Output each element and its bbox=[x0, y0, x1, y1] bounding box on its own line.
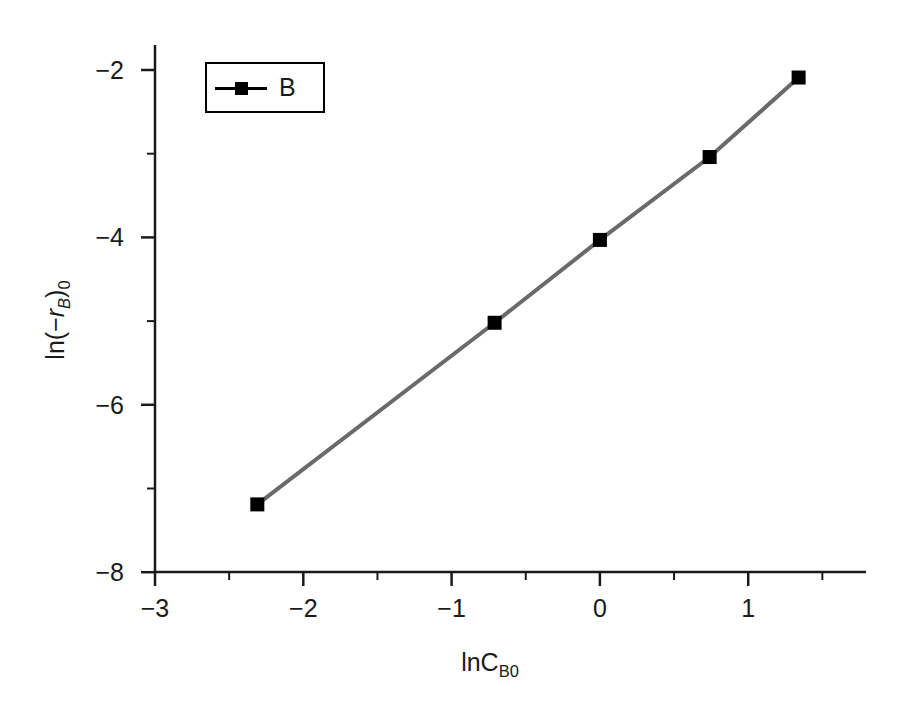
x-tick-label: −2 bbox=[289, 594, 318, 623]
y-tick-label: −4 bbox=[78, 223, 124, 252]
legend-entry-label: B bbox=[279, 73, 296, 102]
y-axis-label-suffix: ) bbox=[41, 290, 69, 298]
y-tick-label: −2 bbox=[78, 56, 124, 85]
data-point-marker bbox=[593, 233, 607, 247]
y-axis-label: ln(−rB)0 bbox=[41, 280, 74, 359]
x-axis-label: lnCB0 bbox=[461, 648, 519, 681]
data-point-marker bbox=[488, 316, 502, 330]
y-axis-label-prefix: ln(− bbox=[41, 317, 69, 359]
x-tick-label: 0 bbox=[593, 594, 607, 623]
chart-figure: −3−2−101 −2−4−6−8 lnCB0 ln(−rB)0 B bbox=[0, 0, 905, 712]
legend-square-marker-icon bbox=[235, 82, 248, 95]
y-axis-label-variable: r bbox=[41, 309, 69, 317]
data-point-marker bbox=[250, 497, 264, 511]
x-axis-major-ticks bbox=[155, 572, 748, 586]
y-tick-label: −8 bbox=[78, 558, 124, 587]
x-tick-label: −3 bbox=[141, 594, 170, 623]
series-line-group bbox=[257, 78, 798, 505]
data-point-marker bbox=[703, 150, 717, 164]
x-axis-label-subscript: B0 bbox=[499, 662, 519, 680]
y-tick-label: −6 bbox=[78, 390, 124, 419]
x-axis-label-main: lnC bbox=[461, 648, 499, 676]
y-axis-label-outer-subscript: 0 bbox=[55, 280, 73, 289]
legend-box[interactable]: B bbox=[205, 62, 325, 113]
legend-sample-swatch bbox=[215, 78, 267, 98]
series-line bbox=[257, 78, 798, 505]
data-point-marker bbox=[792, 71, 806, 85]
y-axis-label-variable-subscript: B bbox=[55, 298, 73, 309]
x-tick-label: −1 bbox=[437, 594, 466, 623]
x-tick-label: 1 bbox=[741, 594, 755, 623]
